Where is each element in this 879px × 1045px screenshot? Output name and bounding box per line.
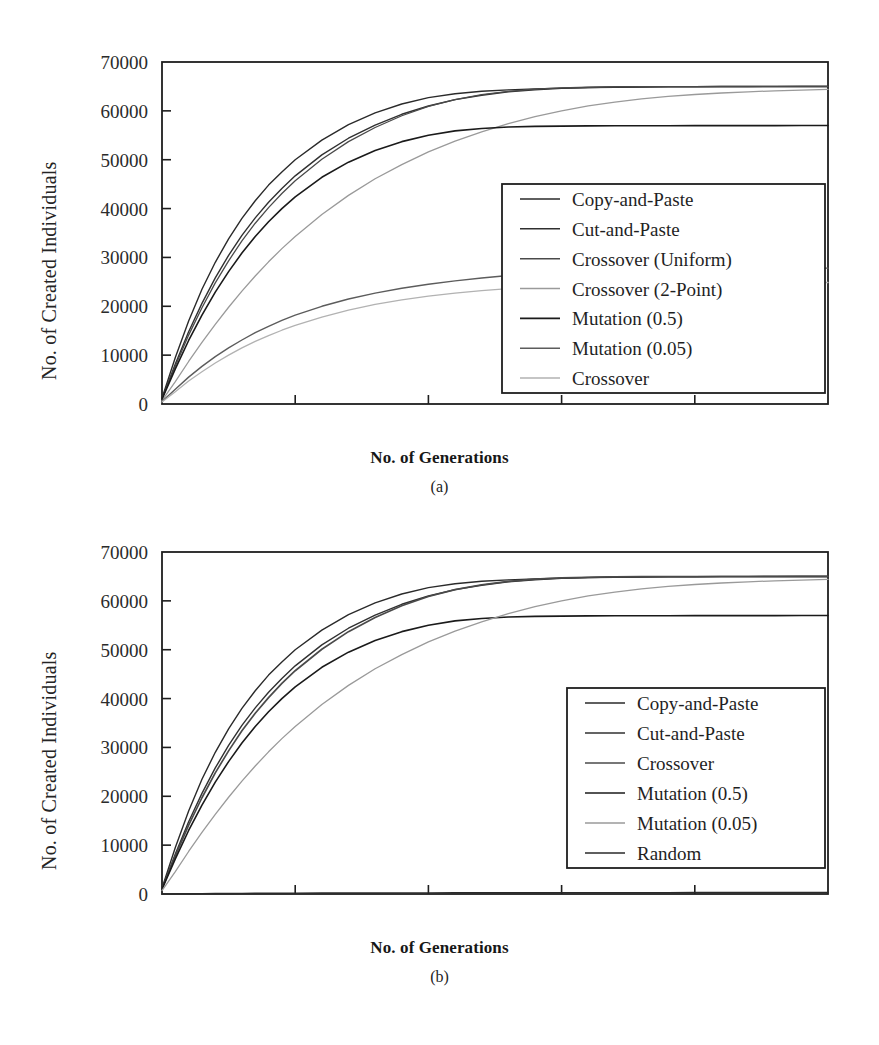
x-axis-tick-label: 0 <box>157 417 167 420</box>
legend-label: Cut-and-Paste <box>572 219 680 240</box>
x-axis-tick-label: 3000 <box>543 417 581 420</box>
x-axis-tick-label: 0 <box>157 907 167 910</box>
x-axis-tick-label: 1000 <box>276 907 314 910</box>
legend-label: Crossover (2-Point) <box>572 279 722 301</box>
y-axis-label-a: No. of Created Individuals <box>38 162 61 380</box>
x-axis-label-a: No. of Generations <box>0 448 879 468</box>
legend-label: Crossover <box>637 753 715 774</box>
legend-label: Mutation (0.05) <box>637 813 757 835</box>
legend-label: Crossover (Uniform) <box>572 249 732 271</box>
figure-a: 0100002000030000400005000060000700000100… <box>0 0 879 520</box>
y-axis-tick-label: 30000 <box>101 737 149 758</box>
x-axis-tick-label: 2000 <box>409 907 447 910</box>
chart-b-canvas: 0100002000030000400005000060000700000100… <box>0 490 879 910</box>
y-axis-tick-label: 60000 <box>101 101 149 122</box>
legend-label: Mutation (0.5) <box>637 783 748 805</box>
y-axis-tick-label: 0 <box>139 884 149 905</box>
y-axis-tick-label: 50000 <box>101 150 149 171</box>
legend-box <box>567 688 825 868</box>
y-axis-tick-label: 40000 <box>101 689 149 710</box>
legend-label: Cut-and-Paste <box>637 723 745 744</box>
legend-label: Copy-and-Paste <box>637 693 758 714</box>
x-axis-label-b: No. of Generations <box>0 938 879 958</box>
x-axis-tick-label: 1000 <box>276 417 314 420</box>
legend-label: Crossover <box>572 368 650 389</box>
x-axis-tick-label: 4000 <box>676 907 714 910</box>
x-axis-tick-label: 3000 <box>543 907 581 910</box>
legend-label: Mutation (0.05) <box>572 338 692 360</box>
y-axis-tick-label: 20000 <box>101 296 149 317</box>
plot-b-wrapper: 0100002000030000400005000060000700000100… <box>0 490 879 910</box>
y-axis-tick-label: 50000 <box>101 640 149 661</box>
y-axis-tick-label: 70000 <box>101 52 149 73</box>
y-axis-tick-label: 20000 <box>101 786 149 807</box>
y-axis-tick-label: 60000 <box>101 591 149 612</box>
chart-a-canvas: 0100002000030000400005000060000700000100… <box>0 0 879 420</box>
legend-label: Mutation (0.5) <box>572 308 683 330</box>
y-axis-tick-label: 10000 <box>101 345 149 366</box>
plot-a-wrapper: 0100002000030000400005000060000700000100… <box>0 0 879 420</box>
x-axis-tick-label: 5000 <box>809 907 847 910</box>
y-axis-tick-label: 40000 <box>101 199 149 220</box>
y-axis-tick-label: 10000 <box>101 835 149 856</box>
legend-label: Random <box>637 843 702 864</box>
y-axis-tick-label: 30000 <box>101 247 149 268</box>
x-axis-tick-label: 4000 <box>676 417 714 420</box>
x-axis-tick-label: 5000 <box>809 417 847 420</box>
y-axis-tick-label: 0 <box>139 394 149 415</box>
y-axis-tick-label: 70000 <box>101 542 149 563</box>
y-axis-label-b: No. of Created Individuals <box>38 652 61 870</box>
subfigure-caption-b: (b) <box>0 968 879 986</box>
figure-b: 0100002000030000400005000060000700000100… <box>0 490 879 1045</box>
x-axis-tick-label: 2000 <box>409 417 447 420</box>
figure-page: 0100002000030000400005000060000700000100… <box>0 0 879 1045</box>
legend-label: Copy-and-Paste <box>572 189 693 210</box>
